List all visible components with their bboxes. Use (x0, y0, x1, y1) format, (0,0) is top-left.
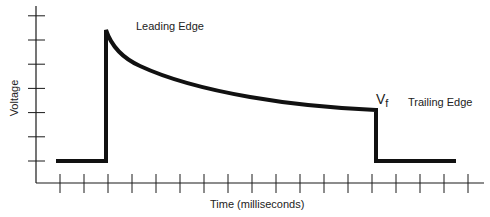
x-axis-label: Time (milliseconds) (210, 198, 304, 210)
vf-label: Vf (376, 91, 388, 109)
axes (36, 6, 484, 183)
pulse-signal-line (56, 30, 456, 161)
trailing-edge-label: Trailing Edge (408, 96, 472, 108)
pulse-waveform-chart (0, 0, 490, 217)
vf-subscript: f (385, 97, 388, 109)
vf-main: V (376, 91, 385, 107)
leading-edge-label: Leading Edge (136, 20, 204, 32)
y-axis-label: Voltage (8, 76, 20, 120)
